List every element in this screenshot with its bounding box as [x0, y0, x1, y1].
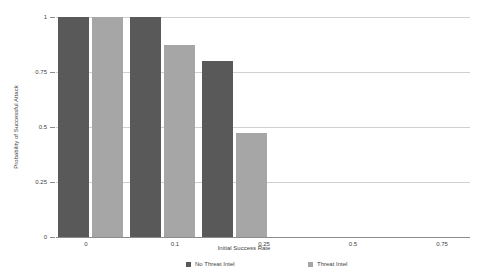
- legend-item[interactable]: Threat Intel: [308, 261, 347, 268]
- legend-item[interactable]: No Threat Intel: [186, 261, 235, 268]
- legend-label: Threat Intel: [317, 261, 347, 268]
- y-tick-label: 0.75: [35, 69, 47, 75]
- bar: [236, 133, 267, 238]
- y-tick-mark: [50, 17, 55, 18]
- legend-swatch-icon: [308, 262, 313, 267]
- bar: [202, 61, 233, 237]
- y-axis-title: Probability of Successful Attack: [13, 85, 20, 168]
- bar-chart: Probability of Successful Attack 10.750.…: [0, 0, 488, 280]
- y-tick-label: 1: [44, 14, 47, 20]
- y-tick-label: 0: [44, 234, 47, 240]
- y-tick-label: 0.5: [39, 124, 47, 130]
- bar: [58, 17, 89, 237]
- bar: [130, 17, 161, 237]
- bar: [92, 17, 123, 237]
- legend-swatch-icon: [186, 262, 191, 267]
- legend-label: No Threat Intel: [195, 261, 235, 268]
- x-axis-title: Initial Success Rate: [0, 245, 488, 252]
- chart-legend: No Threat IntelThreat Intel: [0, 261, 488, 271]
- y-tick-label: 0.25: [35, 179, 47, 185]
- plot-area: 10.750.50.25000.10.250.50.75: [56, 17, 470, 237]
- y-tick-mark: [50, 237, 55, 238]
- gridline-y-0: [56, 237, 470, 238]
- y-tick-mark: [50, 182, 55, 183]
- y-tick-mark: [50, 72, 55, 73]
- y-tick-mark: [50, 127, 55, 128]
- bar: [164, 45, 195, 238]
